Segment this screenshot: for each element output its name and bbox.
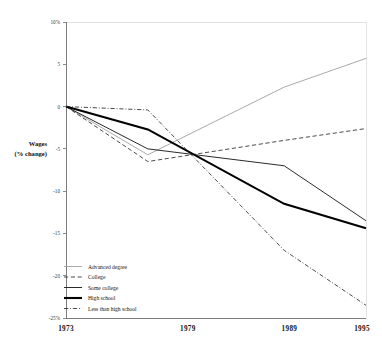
x-tick-label: 1989 <box>282 325 298 333</box>
legend-label: High school <box>88 295 116 301</box>
chart-legend: Advanced degree College Some college Hig… <box>64 264 137 312</box>
y-tick-label: -5 <box>56 146 61 152</box>
legend-item-high-school[interactable]: High school <box>64 295 116 301</box>
chart-canvas: 10% 5 0 -5 -10 -15 -20 -25% Wages (% cha… <box>0 0 382 350</box>
series-line-less-than-high-school <box>66 107 366 306</box>
y-axis-title-line-2: (% change) <box>15 150 47 158</box>
x-tick-label: 1995 <box>354 325 370 333</box>
legend-label: Less than high school <box>88 306 137 312</box>
y-tick-marks <box>63 22 67 318</box>
y-axis-title: Wages (% change) <box>15 140 48 158</box>
chart-title <box>0 0 382 9</box>
legend-label: Some college <box>88 285 119 291</box>
series-line-advanced-degree <box>66 58 366 154</box>
legend-item-some-college[interactable]: Some college <box>64 285 119 291</box>
y-axis-title-line-1: Wages <box>29 140 48 147</box>
series-line-some-college <box>66 107 366 221</box>
x-tick-label: 1979 <box>180 325 196 333</box>
legend-label: Advanced degree <box>88 264 127 270</box>
x-tick-labels: 1973 1979 1989 1995 <box>58 325 370 333</box>
legend-item-college[interactable]: College <box>64 274 106 280</box>
series-line-college <box>66 107 366 162</box>
legend-item-advanced-degree[interactable]: Advanced degree <box>64 264 127 270</box>
legend-item-less-than-high-school[interactable]: Less than high school <box>64 306 137 312</box>
axis-frame <box>66 22 366 318</box>
y-tick-label: 0 <box>57 104 60 110</box>
legend-label: College <box>88 274 106 280</box>
y-tick-label: -20 <box>53 273 60 279</box>
y-tick-label: -15 <box>53 230 60 236</box>
series-line-high-school <box>66 107 366 229</box>
y-tick-labels: 10% 5 0 -5 -10 -15 -20 -25% <box>49 19 61 321</box>
x-tick-label: 1973 <box>58 325 74 333</box>
y-tick-label: -10 <box>53 188 60 194</box>
wages-by-education-line-chart: 10% 5 0 -5 -10 -15 -20 -25% Wages (% cha… <box>0 0 382 350</box>
y-tick-label: 5 <box>57 61 60 67</box>
y-tick-label: -25% <box>49 315 61 321</box>
y-tick-label: 10% <box>50 19 60 25</box>
